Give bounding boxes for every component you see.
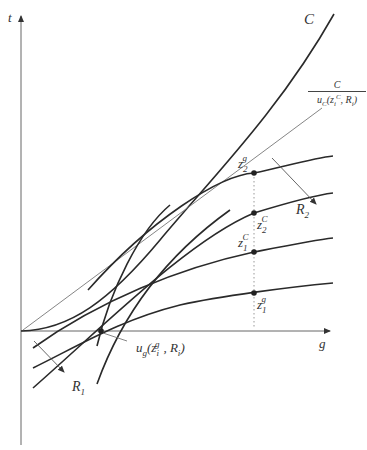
t-axis-label: t	[8, 11, 12, 24]
r1-direction-arrow	[34, 341, 64, 372]
label-R2: R2	[296, 203, 309, 220]
diagram-canvas	[0, 0, 367, 450]
g-axis-label: g	[319, 337, 326, 350]
ray-line-c-over-uc	[23, 108, 322, 330]
cost-curve-C	[21, 14, 334, 331]
curve-z2C	[33, 193, 333, 388]
label-z2C: z2C	[257, 217, 273, 235]
point-ug	[98, 328, 104, 334]
ug-leader-line	[103, 333, 127, 341]
point-z1g	[251, 290, 257, 296]
curve-label-C: C	[304, 12, 314, 27]
label-z1C: z1C	[238, 235, 254, 253]
r2-direction-arrow	[272, 158, 316, 204]
ray-label-fraction: C uC(ziC, Ri)	[308, 80, 366, 108]
label-z1g: z1g	[257, 297, 271, 315]
label-R1: R1	[72, 380, 85, 397]
label-z2g: z2g	[238, 156, 252, 174]
label-ug: ug(zig, Ri)	[136, 340, 185, 358]
point-z2C	[251, 210, 257, 216]
